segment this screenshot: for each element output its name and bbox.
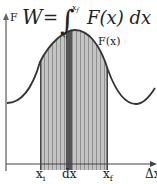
x-axis-label: Δx bbox=[145, 167, 157, 181]
svg-text:W: W bbox=[22, 5, 44, 29]
work-integral-diagram: F W = ∫ xf xi F(x) dx F(x) xi dx xf Δx bbox=[0, 0, 157, 184]
x-final-label: xf bbox=[103, 167, 114, 183]
svg-text:=: = bbox=[43, 7, 58, 28]
dx-label: dx bbox=[62, 167, 77, 181]
svg-text:F(x) dx: F(x) dx bbox=[86, 7, 151, 28]
y-axis-label: F bbox=[10, 11, 18, 24]
y-axis bbox=[3, 13, 9, 171]
curve-label: F(x) bbox=[98, 35, 120, 48]
